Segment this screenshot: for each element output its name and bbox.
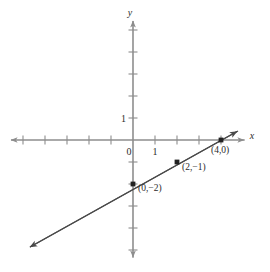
point-label-0-neg2: (0,−2) <box>138 183 162 194</box>
coordinate-plane-figure: y x 0 1 1 (0,−2) (2,−1) (4,0) <box>0 0 270 272</box>
plotted-points-group <box>131 138 224 187</box>
axes-group <box>11 21 245 258</box>
origin-label: 0 <box>127 146 132 157</box>
point-marker-4-0 <box>219 138 224 143</box>
x-axis-label: x <box>249 130 255 141</box>
point-label-4-0: (4,0) <box>211 145 229 156</box>
point-label-2-neg1: (2,−1) <box>182 162 206 173</box>
plotted-line-group <box>30 131 238 247</box>
point-marker-2-neg1 <box>175 160 180 165</box>
graph-canvas: y x 0 1 1 (0,−2) (2,−1) (4,0) <box>0 0 270 272</box>
point-marker-0-neg2 <box>131 182 136 187</box>
x-tick-label-1: 1 <box>153 146 158 157</box>
y-tick-label-1: 1 <box>121 113 126 124</box>
y-axis-label: y <box>127 7 133 18</box>
